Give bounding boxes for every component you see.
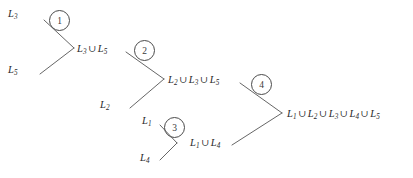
edge-l4-to-m3 [160, 143, 177, 160]
edge-l2-to-m2 [130, 79, 164, 108]
leaf-l5: L5 [8, 65, 18, 76]
leaf-l1: L1 [142, 116, 152, 127]
result-1: L3∪L5 [77, 44, 107, 55]
leaf-l3: L3 [8, 9, 18, 20]
step-2: 2 [134, 40, 155, 61]
leaf-l4: L4 [140, 153, 150, 164]
step-1: 1 [49, 10, 70, 31]
result-4: L1∪L2∪L3∪L4∪L5 [287, 109, 380, 120]
leaf-l2: L2 [100, 100, 110, 111]
edge-l5-to-m1 [40, 48, 74, 74]
step-3: 3 [164, 117, 185, 138]
merge-tree-diagram: L3L5L2L1L4L3∪L5L2∪L3∪L5L1∪L4L1∪L2∪L3∪L4∪… [0, 0, 413, 178]
result-3: L1∪L4 [190, 138, 220, 149]
edge-m3-to-m4 [232, 113, 282, 145]
step-4: 4 [251, 74, 272, 95]
result-2: L2∪L3∪L5 [168, 75, 219, 86]
